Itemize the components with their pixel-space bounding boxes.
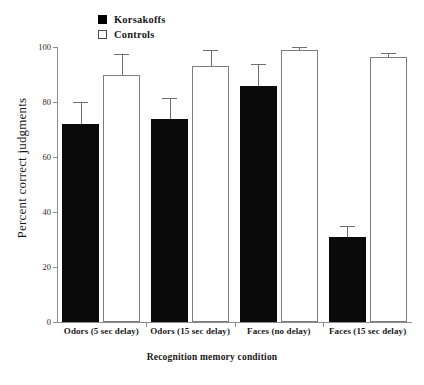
bar-korsakoffs <box>329 237 366 322</box>
error-bar-stem <box>170 98 171 119</box>
bar-korsakoffs <box>62 124 99 322</box>
y-axis-title: Percent correct judgments <box>14 63 30 273</box>
y-axis-tick-label: 40 <box>31 207 51 217</box>
x-axis-category-label: Odors (15 sec delay) <box>140 326 241 336</box>
error-bar-cap <box>340 226 355 227</box>
y-axis-tick <box>53 157 57 158</box>
y-axis-tick <box>53 102 57 103</box>
x-axis-category-label: Faces (15 sec delay) <box>317 326 418 336</box>
y-axis-line <box>57 47 58 323</box>
error-bar-stem <box>258 64 259 86</box>
bar-korsakoffs <box>151 119 188 323</box>
error-bar-stem <box>122 54 123 75</box>
plot-area: 020406080100 <box>57 47 412 322</box>
y-axis-tick-label: 100 <box>31 42 51 52</box>
error-bar-cap <box>114 54 129 55</box>
legend-swatch-filled-square-icon <box>98 15 107 24</box>
chart-legend: Korsakoffs Controls <box>98 12 248 42</box>
error-bar-cap <box>162 98 177 99</box>
x-axis-title: Recognition memory condition <box>0 352 424 362</box>
y-axis-tick <box>53 322 57 323</box>
y-axis-tick-label: 0 <box>31 317 51 327</box>
y-axis-tick-label: 60 <box>31 152 51 162</box>
legend-swatch-open-square-icon <box>98 30 107 39</box>
y-axis-tick <box>53 212 57 213</box>
error-bar-stem <box>211 50 212 67</box>
legend-label-controls: Controls <box>114 29 155 40</box>
legend-entry-controls: Controls <box>98 27 248 41</box>
x-axis-category-label: Faces (no delay) <box>229 326 330 336</box>
error-bar-stem <box>81 102 82 124</box>
bar-controls <box>281 50 318 322</box>
legend-entry-korsakoffs: Korsakoffs <box>98 12 248 26</box>
error-bar-cap <box>292 47 307 48</box>
error-bar-cap <box>73 102 88 103</box>
bar-controls <box>103 75 140 323</box>
bar-chart-figure: Korsakoffs Controls Percent correct judg… <box>0 0 424 385</box>
bar-korsakoffs <box>240 86 277 323</box>
error-bar-cap <box>381 53 396 54</box>
y-axis-tick-label: 20 <box>31 262 51 272</box>
y-axis-tick-label: 80 <box>31 97 51 107</box>
y-axis-tick <box>53 267 57 268</box>
bar-controls <box>192 66 229 322</box>
x-axis-category-label: Odors (5 sec delay) <box>51 326 152 336</box>
error-bar-cap <box>203 50 218 51</box>
bar-controls <box>370 57 407 322</box>
y-axis-tick <box>53 47 57 48</box>
error-bar-stem <box>347 226 348 237</box>
error-bar-cap <box>251 64 266 65</box>
legend-label-korsakoffs: Korsakoffs <box>114 14 166 25</box>
